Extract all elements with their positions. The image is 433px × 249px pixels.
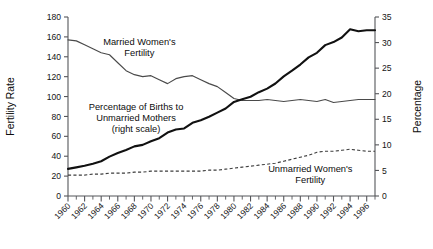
y-axis-right-ticklabel: 35 (382, 12, 392, 22)
y-axis-left-ticklabel: 60 (51, 131, 61, 141)
x-axis-ticklabel: 1976 (185, 201, 205, 221)
x-axis-ticklabel: 1970 (135, 201, 155, 221)
series-line-married-fertility (68, 40, 375, 103)
fertility-chart: 0204060801001201401601800510152025303519… (0, 0, 433, 249)
x-axis-ticklabel: 1990 (301, 201, 321, 221)
x-axis-ticklabel: 1986 (268, 201, 288, 221)
y-axis-left-ticklabel: 40 (51, 151, 61, 161)
x-axis-ticklabel: 1966 (102, 201, 122, 221)
married-label-line: Fertility (124, 48, 154, 58)
y-axis-right-ticklabel: 5 (382, 166, 387, 176)
y-axis-right-ticklabel: 10 (382, 140, 392, 150)
y-axis-right-ticklabel: 15 (382, 114, 392, 124)
x-axis-ticklabel: 1980 (218, 201, 238, 221)
x-axis-ticklabel: 1978 (202, 201, 222, 221)
x-axis-ticklabel: 1982 (235, 201, 255, 221)
y-axis-left-title: Fertility Rate (5, 77, 16, 136)
pct-label-line: Unmarried Mothers (96, 113, 176, 123)
pct-label-line: Percentage of Births to (89, 102, 184, 112)
y-axis-right-ticklabel: 0 (382, 191, 387, 201)
x-axis-ticklabel: 1994 (334, 201, 354, 221)
y-axis-right-ticklabel: 25 (382, 63, 392, 73)
x-axis-ticklabel: 1960 (52, 201, 72, 221)
y-axis-left-ticklabel: 140 (47, 52, 62, 62)
y-axis-left-ticklabel: 120 (47, 72, 62, 82)
married-label-line: Married Women's (103, 37, 176, 47)
y-axis-left-ticklabel: 100 (47, 92, 62, 102)
pct-label-line: (right scale) (112, 124, 161, 134)
x-axis-ticklabel: 1968 (119, 201, 139, 221)
y-axis-left-ticklabel: 20 (51, 171, 61, 181)
series-line-percentage-unmarried-births (68, 29, 375, 169)
x-axis-ticklabel: 1992 (318, 201, 338, 221)
x-axis-ticklabel: 1984 (251, 201, 271, 221)
x-axis-ticklabel: 1974 (168, 201, 188, 221)
y-axis-left-ticklabel: 160 (47, 32, 62, 42)
y-axis-right-ticklabel: 20 (382, 89, 392, 99)
y-axis-right-title: Percentage (412, 80, 423, 133)
x-axis-ticklabel: 1962 (69, 201, 89, 221)
x-axis-ticklabel: 1988 (284, 201, 304, 221)
chart-canvas: 0204060801001201401601800510152025303519… (0, 0, 433, 249)
y-axis-left-ticklabel: 0 (56, 191, 61, 201)
y-axis-left-ticklabel: 80 (51, 112, 61, 122)
y-axis-left-ticklabel: 180 (47, 12, 62, 22)
x-axis-ticklabel: 1996 (351, 201, 371, 221)
unmarried-label-line: Fertility (295, 175, 325, 185)
x-axis-ticklabel: 1964 (85, 201, 105, 221)
unmarried-label-line: Unmarried Women's (268, 164, 353, 174)
y-axis-right-ticklabel: 30 (382, 38, 392, 48)
x-axis-ticklabel: 1972 (152, 201, 172, 221)
